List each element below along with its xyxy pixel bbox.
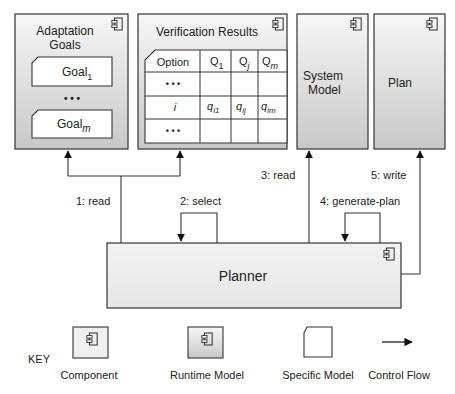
plan-model: Plan xyxy=(374,14,445,149)
flow-4-loop xyxy=(345,213,380,243)
legend-title: KEY xyxy=(28,353,51,365)
legend-control-flow: Control Flow xyxy=(368,342,430,381)
legend-specific-model-label: Specific Model xyxy=(282,369,354,381)
adaptation-goals-title-1: Adaptation xyxy=(36,24,93,38)
system-model: System Model xyxy=(297,14,368,149)
planner-title: Planner xyxy=(219,268,268,284)
legend-component-label: Component xyxy=(61,369,118,381)
flow-5-label: 5: write xyxy=(371,169,406,181)
flow-1-label: 1: read xyxy=(76,195,110,207)
legend: KEY Component Runtime Model Specific Mod… xyxy=(28,327,430,381)
plan-title: Plan xyxy=(388,76,412,90)
legend-control-flow-label: Control Flow xyxy=(368,369,430,381)
adaptation-goals-title-2: Goals xyxy=(49,38,80,52)
system-model-title-2: Model xyxy=(308,83,341,97)
flow-2-loop xyxy=(181,213,217,243)
flow-3-label: 3: read xyxy=(261,169,295,181)
legend-runtime-model-label: Runtime Model xyxy=(170,369,244,381)
verification-table: Option Q1 Qj Qm • • • i qi1 qij qim • • … xyxy=(145,50,287,143)
verification-results-title: Verification Results xyxy=(156,25,258,39)
flow-2-label: 2: select xyxy=(180,195,221,207)
verification-results-model: Verification Results Option Q1 Qj Qm • •… xyxy=(138,14,287,149)
system-model-title-1: System xyxy=(303,69,343,83)
planner-component: Planner xyxy=(107,243,401,308)
row-1-option: • • • xyxy=(166,79,180,89)
header-option: Option xyxy=(157,56,189,68)
row-3-option: • • • xyxy=(166,126,180,136)
flow-4-label: 4: generate-plan xyxy=(320,195,400,207)
legend-specific-model: Specific Model xyxy=(282,327,354,381)
adaptation-goals-model: Adaptation Goals Goal1 • • • Goalm xyxy=(15,14,128,149)
goals-ellipsis: • • • xyxy=(64,93,81,104)
specific-model-icon xyxy=(304,327,332,357)
architecture-diagram: Adaptation Goals Goal1 • • • Goalm Verif… xyxy=(0,0,455,394)
legend-component: Component xyxy=(61,327,118,381)
legend-runtime-model: Runtime Model xyxy=(170,327,244,381)
